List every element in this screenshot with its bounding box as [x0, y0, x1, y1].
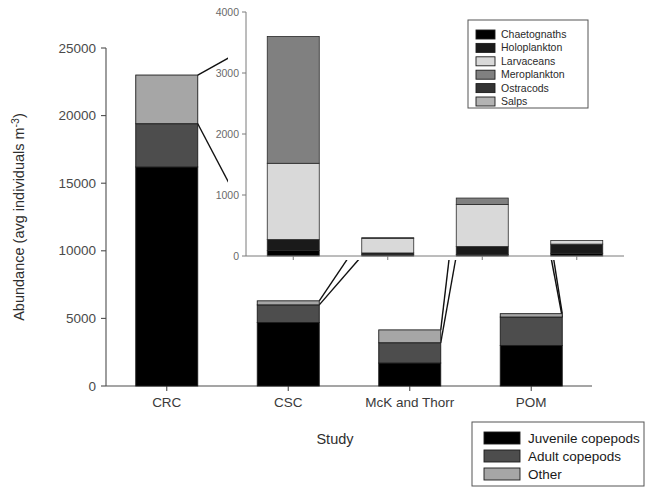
bar-segment	[136, 167, 198, 386]
inset-legend-label: Holoplankton	[501, 41, 562, 53]
main-legend-swatch	[484, 432, 520, 444]
y-tick-label: 10000	[58, 243, 96, 258]
bar-segment	[257, 322, 319, 386]
x-tick-group: CRCCSCMcK and ThorrPOM	[152, 386, 547, 410]
inset-legend-label: Meroplankton	[501, 68, 565, 80]
leader-line	[551, 256, 563, 317]
main-legend: Juvenile copepodsAdult copepodsOther	[472, 422, 644, 486]
main-legend-label: Other	[528, 467, 562, 482]
inset-bar-segment	[267, 163, 319, 239]
inset-legend-label: Chaetognaths	[501, 28, 566, 40]
bar-stack	[136, 75, 198, 386]
inset-bar-stack	[456, 198, 508, 256]
inset-legend-label: Larvaceans	[501, 55, 555, 67]
inset-y-tick-label: 1000	[216, 189, 240, 201]
inset-bar-segment	[267, 240, 319, 251]
leader-line	[319, 256, 362, 305]
bar-segment	[379, 330, 441, 343]
inset-bar-segment	[362, 238, 414, 239]
bar-segment	[500, 314, 562, 317]
y-tick-group: 0500010000150002000025000	[58, 41, 106, 394]
inset-legend-swatch	[476, 70, 495, 79]
bar-stack	[500, 314, 562, 386]
y-tick-label: 15000	[58, 176, 96, 191]
inset-legend-label: Salps	[501, 95, 527, 107]
inset-legend-swatch	[476, 30, 495, 39]
x-tick-label: McK and Thorr	[365, 395, 455, 410]
inset-legend-label: Ostracods	[501, 82, 549, 94]
inset-y-tick-label: 0	[233, 250, 239, 262]
figure-root: 0500010000150002000025000 CRCCSCMcK and …	[0, 0, 650, 492]
y-tick-label: 20000	[58, 108, 96, 123]
inset-bar-segment	[456, 247, 508, 255]
inset-bar-segment	[456, 204, 508, 246]
inset-y-tick-label: 2000	[216, 128, 240, 140]
main-legend-label: Adult copepods	[528, 449, 621, 464]
bar-segment	[136, 75, 198, 124]
y-tick-label: 0	[88, 379, 96, 394]
inset-legend-swatch	[476, 97, 495, 106]
x-axis-label: Study	[316, 431, 354, 447]
inset-bar-segment	[362, 238, 414, 253]
inset-legend-swatch	[476, 43, 495, 52]
inset-bar-segment	[267, 251, 319, 256]
chart-canvas: 0500010000150002000025000 CRCCSCMcK and …	[0, 0, 650, 492]
bar-stack	[257, 301, 319, 386]
bar-segment	[136, 124, 198, 167]
inset-bar-stack	[267, 36, 319, 256]
bar-stack	[379, 330, 441, 386]
main-legend-swatch	[484, 468, 520, 480]
inset-bar-segment	[456, 198, 508, 204]
inset-y-tick-label: 3000	[216, 67, 240, 79]
inset-bar-segment	[267, 36, 319, 163]
inset-bar-stack	[362, 238, 414, 256]
main-legend-label: Juvenile copepods	[528, 431, 640, 446]
bar-segment	[257, 301, 319, 305]
inset-bar-segment	[551, 240, 603, 244]
bar-segment	[379, 343, 441, 363]
inset-bar-stack	[551, 240, 603, 256]
x-tick-label: CSC	[274, 395, 303, 410]
bar-segment	[500, 345, 562, 386]
x-tick-label: CRC	[152, 395, 181, 410]
inset-legend-swatch	[476, 57, 495, 66]
main-legend-swatch	[484, 450, 520, 462]
y-tick-label: 5000	[66, 311, 96, 326]
bar-segment	[257, 305, 319, 323]
x-tick-label: POM	[516, 395, 547, 410]
inset-legend: ChaetognathsHoloplanktonLarvaceansMeropl…	[468, 20, 588, 108]
inset-bar-segment	[551, 244, 603, 253]
y-tick-label: 25000	[58, 41, 96, 56]
inset-legend-swatch	[476, 84, 495, 93]
bar-segment	[379, 363, 441, 386]
bar-segment	[500, 317, 562, 345]
y-axis-label: Abundance (avg individuals m-3)	[9, 113, 27, 321]
inset-y-tick-label: 4000	[216, 6, 240, 18]
